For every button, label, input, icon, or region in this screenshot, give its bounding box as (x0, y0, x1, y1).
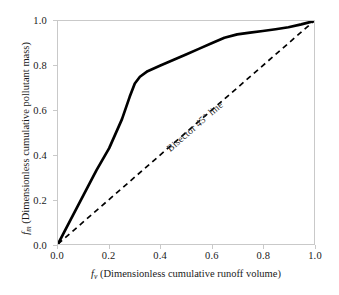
y-axis-variable: f (20, 232, 31, 235)
y-tick-mark (53, 155, 57, 156)
x-tick-label: 0.0 (50, 250, 64, 261)
x-tick-mark (263, 245, 264, 249)
x-tick-mark (160, 245, 161, 249)
x-tick-label: 0.6 (205, 250, 219, 261)
x-tick-mark (109, 245, 110, 249)
y-tick-mark (53, 65, 57, 66)
y-tick-label: 0.0 (33, 240, 47, 251)
y-tick-label: 1.0 (33, 15, 47, 26)
y-axis-label: fm (Dimensionless cumulative pollutant m… (20, 16, 33, 261)
y-axis-description: (Dimensionless cumulative pollutant mass… (20, 42, 31, 226)
y-tick-mark (53, 20, 57, 21)
y-tick-mark (53, 110, 57, 111)
y-axis-subscript: m (24, 226, 33, 231)
x-tick-label: 0.8 (257, 250, 271, 261)
x-axis-label: fv (Dimensionless cumulative runoff volu… (57, 268, 315, 281)
x-tick-label: 0.4 (153, 250, 167, 261)
y-tick-label: 0.8 (33, 60, 47, 71)
y-tick-label: 0.4 (33, 150, 47, 161)
y-tick-label: 0.2 (33, 195, 47, 206)
x-tick-mark (57, 245, 58, 249)
x-tick-label: 1.0 (308, 250, 322, 261)
x-axis-description: (Dimensionless cumulative runoff volume) (97, 268, 281, 279)
y-tick-label: 0.6 (33, 105, 47, 116)
y-tick-mark (53, 245, 57, 246)
chart-figure: Bisector 45° line 0.00.20.40.60.81.0 0.0… (0, 0, 339, 295)
x-tick-mark (315, 245, 316, 249)
x-tick-label: 0.2 (102, 250, 116, 261)
y-tick-mark (53, 200, 57, 201)
x-tick-mark (212, 245, 213, 249)
